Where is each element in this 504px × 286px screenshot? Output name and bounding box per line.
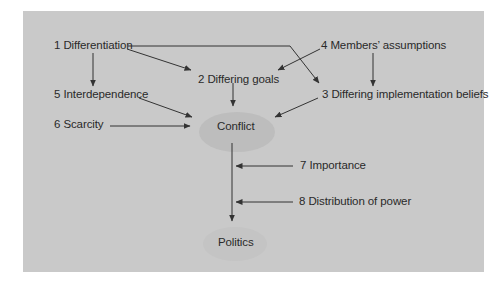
node-differentiation: 1 Differentiation	[54, 39, 133, 52]
node-importance: 7 Importance	[300, 159, 366, 172]
node-distribution-of-power: 8 Distribution of power	[299, 195, 411, 208]
node-differing-goals: 2 Differing goals	[198, 73, 279, 86]
node-scarcity: 6 Scarcity	[54, 118, 104, 131]
node-differing-implementation-beliefs: 3 Differing implementation beliefs	[322, 88, 488, 101]
node-conflict: Conflict	[217, 120, 255, 133]
node-interdependence: 5 Interdependence	[54, 88, 148, 101]
node-members-assumptions: 4 Members’ assumptions	[321, 39, 446, 52]
node-politics: Politics	[218, 236, 254, 249]
